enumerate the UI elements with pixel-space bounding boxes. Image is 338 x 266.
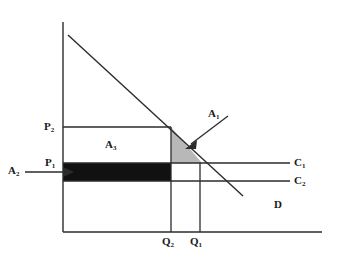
label-a2: A2 (8, 165, 19, 176)
label-p1: P1 (45, 157, 55, 168)
label-q1: Q1 (190, 236, 202, 247)
label-c2: C2 (294, 175, 305, 186)
label-a3: A3 (105, 139, 116, 150)
label-q2: Q2 (162, 236, 174, 247)
label-p2: P2 (44, 121, 54, 132)
label-d: D (274, 199, 282, 210)
area-a3-region (63, 127, 171, 163)
label-c1: C1 (294, 157, 305, 168)
area-a2-rectangle (63, 163, 171, 181)
label-a1: A1 (208, 108, 219, 119)
